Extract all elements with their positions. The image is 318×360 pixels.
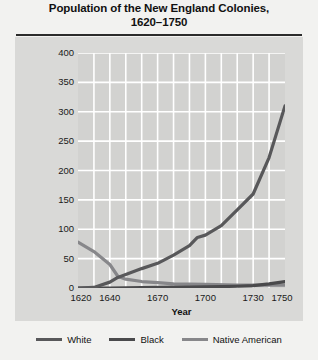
legend-swatch-icon bbox=[36, 338, 62, 341]
y-tick-label: 300 bbox=[28, 106, 74, 117]
legend-label: Native American bbox=[213, 334, 282, 345]
x-axis-ticks: 162016401670170017301750 bbox=[78, 292, 285, 306]
chart-title-line-2: 1620–1750 bbox=[0, 16, 318, 30]
chart-title-line-1: Population of the New England Colonies, bbox=[0, 2, 318, 16]
x-tick-label: 1620 bbox=[70, 292, 91, 303]
x-tick-label: 1670 bbox=[147, 292, 168, 303]
chart-figure: Population of the New England Colonies, … bbox=[0, 0, 318, 360]
x-tick-label: 1700 bbox=[195, 292, 216, 303]
chart-title: Population of the New England Colonies, … bbox=[0, 2, 318, 29]
y-tick-label: 250 bbox=[28, 135, 74, 146]
y-tick-label: 50 bbox=[28, 253, 74, 264]
legend-swatch-icon bbox=[109, 338, 135, 341]
x-axis-label: Year bbox=[78, 306, 285, 317]
y-tick-label: 0 bbox=[28, 282, 74, 293]
plot-svg bbox=[78, 53, 285, 288]
y-tick-label: 200 bbox=[28, 165, 74, 176]
chart-legend: WhiteBlackNative American bbox=[0, 334, 318, 345]
legend-label: Black bbox=[140, 334, 163, 345]
y-tick-label: 350 bbox=[28, 76, 74, 87]
y-tick-label: 150 bbox=[28, 194, 74, 205]
legend-item[interactable]: White bbox=[36, 334, 91, 345]
legend-swatch-icon bbox=[182, 338, 208, 341]
title-divider bbox=[16, 34, 302, 36]
plot-area bbox=[78, 53, 285, 288]
x-tick-label: 1750 bbox=[271, 292, 292, 303]
x-tick-label: 1730 bbox=[243, 292, 264, 303]
y-axis-ticks: 050100150200250300350400 bbox=[26, 53, 74, 288]
y-tick-label: 100 bbox=[28, 223, 74, 234]
legend-item[interactable]: Native American bbox=[182, 334, 282, 345]
y-tick-label: 400 bbox=[28, 47, 74, 58]
x-tick-label: 1640 bbox=[99, 292, 120, 303]
legend-item[interactable]: Black bbox=[109, 334, 163, 345]
legend-label: White bbox=[67, 334, 91, 345]
